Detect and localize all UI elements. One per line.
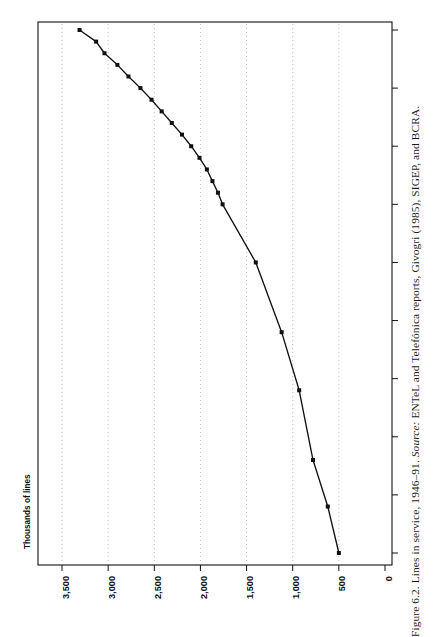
value-tick-label: 1,500 <box>245 576 255 599</box>
value-tick-label: 3,000 <box>107 576 117 599</box>
plot-frame <box>38 22 392 565</box>
figure-container: 3,5003,0002,5002,0001,5001,0005000 19461… <box>0 0 438 637</box>
data-point <box>180 133 184 137</box>
value-tick-label: 1,000 <box>291 576 301 599</box>
data-point <box>138 86 142 90</box>
caption-prefix: Figure 6.2. Lines in service, 1946–91. <box>409 457 421 637</box>
data-point <box>94 40 98 44</box>
data-point <box>205 167 209 171</box>
data-point <box>78 28 82 32</box>
caption-source-text: ENTeL and Telefónica reports, Givogri (1… <box>409 106 421 422</box>
data-point <box>102 51 106 55</box>
data-point <box>216 191 220 195</box>
data-point <box>297 388 301 392</box>
data-point <box>150 98 154 102</box>
series-line <box>80 30 339 553</box>
figure-caption: Figure 6.2. Lines in service, 1946–91. S… <box>398 0 432 637</box>
data-point <box>221 202 225 206</box>
chart-canvas: 3,5003,0002,5002,0001,5001,0005000 19461… <box>0 0 398 637</box>
value-tick-label: 3,500 <box>61 576 71 599</box>
value-tick-label: 500 <box>337 576 347 591</box>
data-point <box>337 551 341 555</box>
value-tick-label: 2,000 <box>199 576 209 599</box>
data-point <box>189 144 193 148</box>
rotated-figure: 3,5003,0002,5002,0001,5001,0005000 19461… <box>0 0 438 637</box>
data-point <box>115 63 119 67</box>
data-point <box>280 330 284 334</box>
gridlines <box>62 24 339 563</box>
data-point <box>311 458 315 462</box>
data-point <box>326 505 330 509</box>
y-axis-title: Thousands of lines <box>23 474 32 549</box>
series-markers <box>78 28 341 555</box>
data-point <box>254 260 258 264</box>
data-point <box>160 109 164 113</box>
value-axis-ticks: 3,5003,0002,5002,0001,5001,0005000 <box>61 565 394 599</box>
data-point <box>210 179 214 183</box>
value-tick-label: 2,500 <box>153 576 163 599</box>
data-point <box>170 121 174 125</box>
data-point <box>126 74 130 78</box>
value-tick-label: 0 <box>384 576 394 581</box>
data-point <box>198 156 202 160</box>
caption-source-label: Source: <box>409 422 421 458</box>
line-chart: 3,5003,0002,5002,0001,5001,0005000 19461… <box>0 0 398 637</box>
